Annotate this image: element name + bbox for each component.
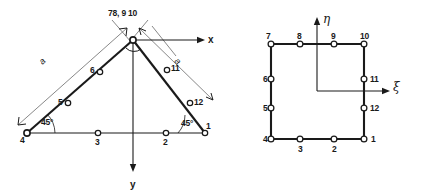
node-2 [331,136,337,142]
node-2 [163,130,168,135]
left-node-label-1: 1 [206,122,211,131]
element-mapping-figure [0,0,425,196]
right-node-label-2: 2 [332,145,337,154]
left-node-label-6: 6 [90,66,95,75]
right-node-label-3: 3 [298,145,303,154]
node-11 [361,76,367,82]
node-5 [268,105,274,111]
y-axis-arrowhead [130,164,136,172]
node-6 [97,69,102,74]
node-10 [361,41,367,47]
left-node-label-2: 2 [163,138,168,147]
xi-axis-label: ξ [393,81,399,93]
node-3 [297,136,303,142]
left-node-label-5: 5 [58,98,63,107]
right-node-label-8: 8 [297,32,302,41]
x-axis-label: x [208,35,213,45]
left-node-label-4: 4 [20,136,25,145]
left-panel-physical-element [18,20,213,172]
y-axis-label: y [130,180,135,190]
right-node-label-12: 12 [370,104,379,113]
edge-apex-to-1 [133,40,205,133]
angle-45-left-label: 45° [41,118,53,127]
angle-45-right-label: 45° [181,119,193,128]
element-outline-thick [27,40,205,133]
leader-right-cross [152,26,176,56]
node-1 [361,136,367,142]
node-5 [65,100,70,105]
left-node-label-12: 12 [194,98,203,107]
node-12 [361,105,367,111]
right-node-label-11: 11 [370,75,379,84]
right-node-label-6: 6 [263,75,268,84]
right-node-label-7: 7 [266,32,271,41]
node-8 [297,41,303,47]
left-node-label-11: 11 [171,64,180,73]
dimension-lines-group [18,20,213,125]
right-node-label-10: 10 [360,32,369,41]
x-axis-arrowhead [197,37,205,43]
xi-axis-group [317,88,390,94]
x-axis-group [133,37,205,43]
node-7-8-9-10-coincident [130,37,136,43]
right-node-label-4: 4 [263,135,268,144]
eta-axis-label: η [323,13,330,25]
node-12 [187,100,192,105]
node-7 [268,41,274,47]
right-node-label-5: 5 [263,104,268,113]
xi-axis-arrowhead [382,88,390,94]
right-node-label-1: 1 [371,135,376,144]
node-1 [202,130,207,135]
eta-axis-group [314,17,320,91]
node-3 [95,130,100,135]
node-6 [268,76,274,82]
node-11 [164,67,169,72]
node-4 [268,136,274,142]
y-axis-group [130,40,136,172]
dimension-line-left [18,28,127,125]
node-9 [331,41,337,47]
right-node-label-9: 9 [331,32,336,41]
dimension-arrowheads [18,28,213,125]
left-node-label-3: 3 [95,138,100,147]
eta-axis-arrowhead [314,17,320,25]
apex-node-group-label: 78, 9 10 [108,9,137,18]
